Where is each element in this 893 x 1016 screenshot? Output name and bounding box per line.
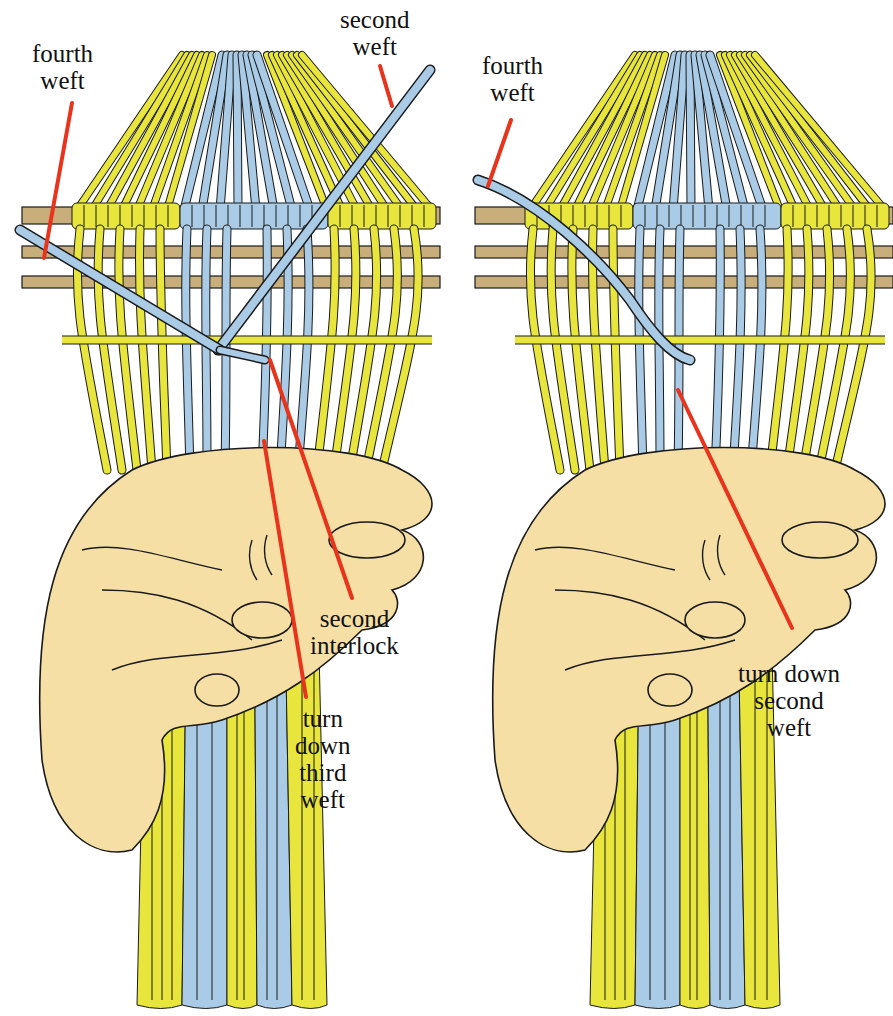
label-turn-down-second-weft: turn down second weft bbox=[738, 660, 840, 741]
left-panel bbox=[20, 55, 440, 1009]
label-fourth-weft-left: fourth weft bbox=[32, 40, 93, 94]
label-fourth-weft-right: fourth weft bbox=[482, 52, 543, 106]
right-panel bbox=[475, 55, 893, 1009]
label-second-weft: second weft bbox=[340, 6, 409, 60]
label-turn-down-third-weft: turn down third weft bbox=[295, 705, 351, 813]
weaving-illustration bbox=[0, 0, 893, 1016]
label-second-interlock: second interlock bbox=[310, 605, 399, 659]
